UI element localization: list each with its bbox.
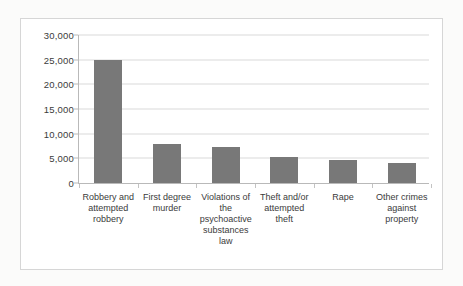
x-tick-mark bbox=[138, 184, 139, 188]
plot-area: 05,00010,00015,00020,00025,00030,000 Rob… bbox=[21, 19, 442, 269]
y-tick-label: 10,000 bbox=[44, 128, 74, 139]
category-label: Robbery and attempted robbery bbox=[81, 192, 136, 225]
y-tick-label: 5,000 bbox=[49, 153, 74, 164]
category-label: Rape bbox=[316, 192, 371, 203]
y-tick-label: 30,000 bbox=[44, 30, 74, 41]
gridline bbox=[78, 109, 429, 110]
y-tick-label: 15,000 bbox=[44, 104, 74, 115]
x-axis-line bbox=[78, 183, 429, 184]
gridline bbox=[78, 84, 429, 85]
gridline bbox=[78, 35, 429, 36]
x-tick-mark bbox=[372, 184, 373, 188]
x-tick-mark bbox=[79, 184, 80, 188]
category-label: First degree murder bbox=[140, 192, 195, 214]
x-tick-mark bbox=[314, 184, 315, 188]
gridline bbox=[78, 158, 429, 159]
y-axis-tick-labels: 05,00010,00015,00020,00025,00030,000 bbox=[21, 19, 74, 269]
bar bbox=[388, 163, 416, 183]
category-label: Other crimes against property bbox=[374, 192, 429, 225]
gridline bbox=[78, 59, 429, 60]
bar bbox=[94, 60, 122, 183]
gridline bbox=[78, 133, 429, 134]
bar bbox=[153, 144, 181, 183]
y-tick-label: 20,000 bbox=[44, 79, 74, 90]
bar bbox=[270, 157, 298, 183]
y-axis-line bbox=[78, 35, 79, 183]
category-label: Theft and/or attempted theft bbox=[257, 192, 312, 225]
chart-frame: 05,00010,00015,00020,00025,00030,000 Rob… bbox=[20, 18, 443, 270]
x-tick-mark bbox=[255, 184, 256, 188]
x-tick-mark bbox=[431, 184, 432, 188]
category-label: Violations of the psychoactive substance… bbox=[198, 192, 253, 247]
bar bbox=[212, 147, 240, 183]
x-tick-mark bbox=[196, 184, 197, 188]
y-tick-label: 25,000 bbox=[44, 54, 74, 65]
bar bbox=[329, 160, 357, 183]
